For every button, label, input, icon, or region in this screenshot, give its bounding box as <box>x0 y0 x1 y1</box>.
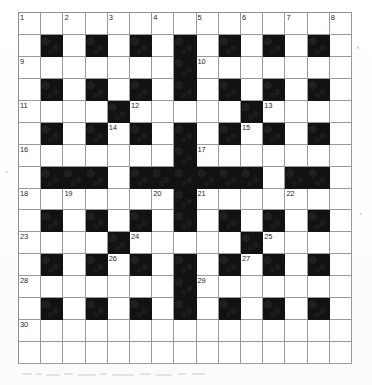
grid-cell-open[interactable] <box>63 320 85 342</box>
grid-cell-open[interactable] <box>241 342 263 364</box>
grid-cell-open[interactable]: 27 <box>241 254 263 276</box>
grid-cell-open[interactable] <box>63 232 85 254</box>
grid-cell-open[interactable]: 1 <box>19 13 41 35</box>
grid-cell-open[interactable]: 26 <box>108 254 130 276</box>
grid-cell-open[interactable] <box>152 276 174 298</box>
grid-cell-open[interactable] <box>285 123 307 145</box>
grid-cell-open[interactable]: 8 <box>330 13 352 35</box>
grid-cell-open[interactable] <box>285 232 307 254</box>
grid-cell-open[interactable] <box>285 210 307 232</box>
grid-cell-open[interactable] <box>330 145 352 167</box>
grid-cell-open[interactable] <box>219 101 241 123</box>
grid-cell-open[interactable] <box>41 13 63 35</box>
grid-cell-open[interactable]: 19 <box>63 189 85 211</box>
grid-cell-open[interactable] <box>263 320 285 342</box>
grid-cell-open[interactable]: 9 <box>19 57 41 79</box>
grid-cell-open[interactable] <box>63 342 85 364</box>
grid-cell-open[interactable] <box>241 276 263 298</box>
grid-cell-open[interactable] <box>308 232 330 254</box>
grid-cell-open[interactable] <box>108 167 130 189</box>
grid-cell-open[interactable]: 13 <box>263 101 285 123</box>
grid-cell-open[interactable] <box>108 298 130 320</box>
grid-cell-open[interactable]: 10 <box>197 57 219 79</box>
grid-cell-open[interactable]: 18 <box>19 189 41 211</box>
grid-cell-open[interactable] <box>63 123 85 145</box>
grid-cell-open[interactable] <box>330 167 352 189</box>
grid-cell-open[interactable] <box>174 13 196 35</box>
grid-cell-open[interactable] <box>152 145 174 167</box>
grid-cell-open[interactable]: 16 <box>19 145 41 167</box>
grid-cell-open[interactable] <box>41 145 63 167</box>
grid-cell-open[interactable] <box>308 189 330 211</box>
grid-cell-open[interactable]: 5 <box>197 13 219 35</box>
grid-cell-open[interactable] <box>86 320 108 342</box>
grid-cell-open[interactable] <box>152 210 174 232</box>
grid-cell-open[interactable] <box>63 298 85 320</box>
grid-cell-open[interactable] <box>86 101 108 123</box>
grid-cell-open[interactable] <box>330 101 352 123</box>
grid-cell-open[interactable]: 7 <box>285 13 307 35</box>
grid-cell-open[interactable] <box>241 320 263 342</box>
grid-cell-open[interactable] <box>174 101 196 123</box>
grid-cell-open[interactable] <box>130 189 152 211</box>
grid-cell-open[interactable] <box>263 167 285 189</box>
grid-cell-open[interactable]: 11 <box>19 101 41 123</box>
grid-cell-open[interactable] <box>152 123 174 145</box>
grid-cell-open[interactable] <box>197 79 219 101</box>
grid-cell-open[interactable]: 4 <box>152 13 174 35</box>
grid-cell-open[interactable] <box>285 276 307 298</box>
grid-cell-open[interactable] <box>19 210 41 232</box>
grid-cell-open[interactable] <box>86 145 108 167</box>
grid-cell-open[interactable] <box>41 276 63 298</box>
grid-cell-open[interactable] <box>330 57 352 79</box>
grid-cell-open[interactable] <box>130 145 152 167</box>
grid-cell-open[interactable] <box>19 298 41 320</box>
grid-cell-open[interactable] <box>152 342 174 364</box>
grid-cell-open[interactable] <box>63 101 85 123</box>
grid-cell-open[interactable] <box>197 123 219 145</box>
grid-cell-open[interactable] <box>63 35 85 57</box>
grid-cell-open[interactable]: 24 <box>130 232 152 254</box>
grid-cell-open[interactable] <box>152 35 174 57</box>
grid-cell-open[interactable] <box>241 189 263 211</box>
grid-cell-open[interactable] <box>241 298 263 320</box>
grid-cell-open[interactable] <box>197 232 219 254</box>
grid-cell-open[interactable] <box>330 210 352 232</box>
grid-cell-open[interactable] <box>197 210 219 232</box>
grid-cell-open[interactable]: 17 <box>197 145 219 167</box>
grid-cell-open[interactable] <box>285 320 307 342</box>
grid-cell-open[interactable] <box>308 342 330 364</box>
grid-cell-open[interactable] <box>263 13 285 35</box>
grid-cell-open[interactable] <box>86 232 108 254</box>
grid-cell-open[interactable] <box>174 320 196 342</box>
grid-cell-open[interactable] <box>108 276 130 298</box>
grid-cell-open[interactable] <box>241 57 263 79</box>
grid-cell-open[interactable] <box>285 342 307 364</box>
grid-cell-open[interactable] <box>19 79 41 101</box>
grid-cell-open[interactable] <box>152 232 174 254</box>
grid-cell-open[interactable] <box>308 145 330 167</box>
grid-cell-open[interactable]: 6 <box>241 13 263 35</box>
grid-cell-open[interactable] <box>308 13 330 35</box>
grid-cell-open[interactable] <box>285 101 307 123</box>
grid-cell-open[interactable] <box>63 276 85 298</box>
crossword-grid[interactable]: 1234567891011121314151617181920212223242… <box>18 12 352 364</box>
grid-cell-open[interactable] <box>108 320 130 342</box>
grid-cell-open[interactable] <box>19 167 41 189</box>
grid-cell-open[interactable]: 30 <box>19 320 41 342</box>
grid-cell-open[interactable] <box>108 189 130 211</box>
grid-cell-open[interactable] <box>285 298 307 320</box>
grid-cell-open[interactable]: 15 <box>241 123 263 145</box>
grid-cell-open[interactable] <box>219 232 241 254</box>
grid-cell-open[interactable] <box>130 342 152 364</box>
grid-cell-open[interactable] <box>241 210 263 232</box>
grid-cell-open[interactable] <box>285 254 307 276</box>
grid-cell-open[interactable] <box>63 79 85 101</box>
grid-cell-open[interactable] <box>308 101 330 123</box>
grid-cell-open[interactable] <box>219 276 241 298</box>
grid-cell-open[interactable] <box>152 298 174 320</box>
grid-cell-open[interactable] <box>219 189 241 211</box>
grid-cell-open[interactable] <box>63 57 85 79</box>
grid-cell-open[interactable] <box>197 254 219 276</box>
grid-cell-open[interactable] <box>285 57 307 79</box>
